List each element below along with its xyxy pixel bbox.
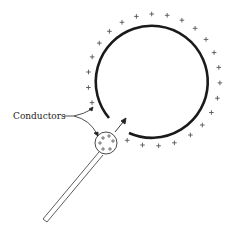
shell-charges xyxy=(86,12,222,148)
motion-arrow xyxy=(115,118,126,132)
conducting-shell xyxy=(96,26,208,138)
label-leader-lines xyxy=(64,107,98,136)
conductors-label: Conductors xyxy=(13,111,66,121)
insulating-rod xyxy=(43,152,103,222)
